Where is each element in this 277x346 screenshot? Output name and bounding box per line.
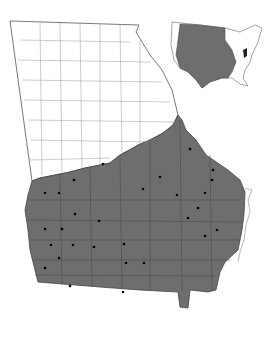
us-inset-map (171, 22, 262, 88)
distribution-map (0, 0, 277, 346)
